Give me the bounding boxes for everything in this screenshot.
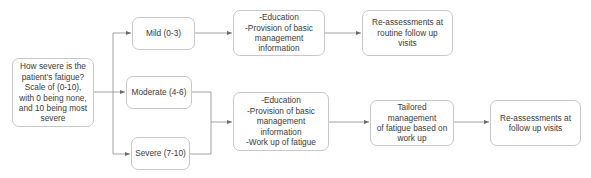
edge-moderate-to-merge xyxy=(192,92,211,122)
node-severe-text: Severe (7-10) xyxy=(135,148,186,158)
node-modsev-followup-text: Re-assessments at follow up visits xyxy=(500,113,571,134)
node-question-text: How severe is the patient's fatigue? Sca… xyxy=(19,61,87,123)
node-mild-followup: Re-assessments at routine follow up visi… xyxy=(362,10,453,56)
node-modsev-action-text: -Education -Provision of basic managemen… xyxy=(246,95,316,147)
node-mild-text: Mild (0-3) xyxy=(146,28,181,38)
node-mild: Mild (0-3) xyxy=(132,17,195,50)
node-question: How severe is the patient's fatigue? Sca… xyxy=(12,58,94,127)
node-modsev-followup: Re-assessments at follow up visits xyxy=(490,100,581,146)
node-mild-action-text: -Education -Provision of basic managemen… xyxy=(245,12,313,54)
node-mild-followup-text: Re-assessments at routine follow up visi… xyxy=(372,17,443,48)
node-moderate-text: Moderate (4-6) xyxy=(132,87,187,97)
node-tailored-text: Tailored management of fatigue based on … xyxy=(374,102,450,144)
node-moderate: Moderate (4-6) xyxy=(126,76,192,109)
node-severe: Severe (7-10) xyxy=(131,137,190,170)
edge-severe-to-merge xyxy=(190,122,211,154)
fatigue-severity-flowchart: How severe is the patient's fatigue? Sca… xyxy=(0,0,591,178)
node-modsev-action: -Education -Provision of basic managemen… xyxy=(233,92,329,151)
node-tailored: Tailored management of fatigue based on … xyxy=(370,100,454,146)
node-mild-action: -Education -Provision of basic managemen… xyxy=(233,10,325,56)
